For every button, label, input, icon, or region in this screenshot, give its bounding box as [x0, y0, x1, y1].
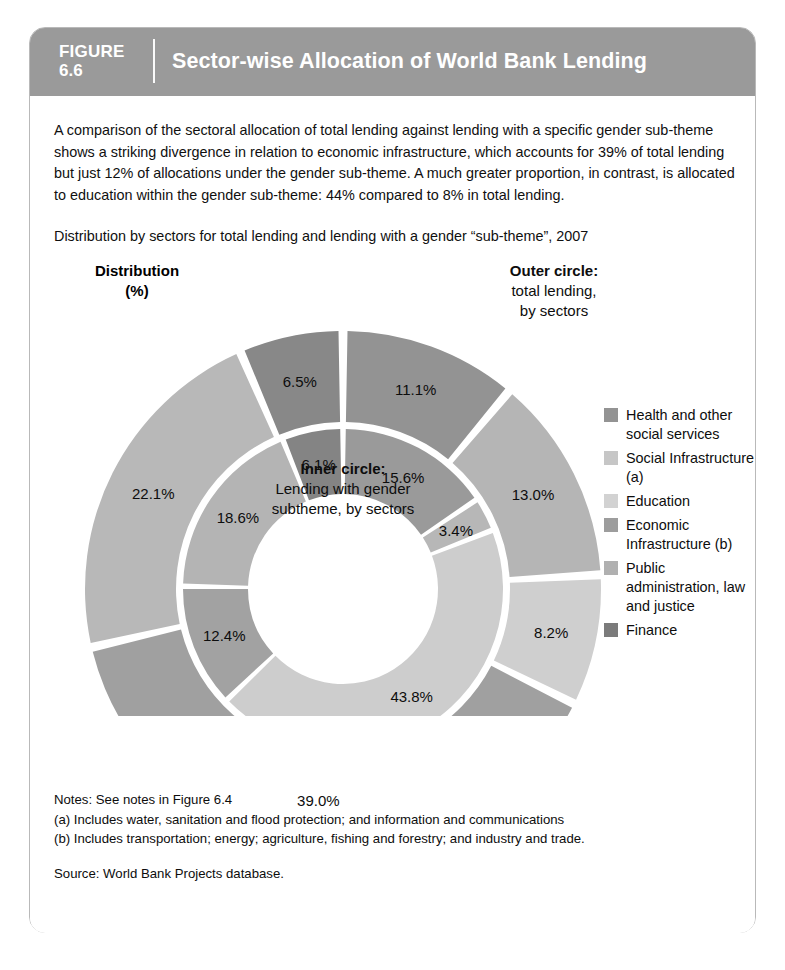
- figure-number: 6.6: [59, 61, 151, 80]
- slice-value-label: 11.1%: [395, 381, 436, 398]
- figure-page: FIGURE 6.6 Sector-wise Allocation of Wor…: [0, 0, 785, 970]
- chart-legend: Health and other social servicesSocial I…: [604, 406, 754, 645]
- legend-swatch: [604, 408, 618, 422]
- legend-label: Social Infrastructure (a): [626, 449, 754, 487]
- legend-item: Public administration, law and justice: [604, 559, 754, 616]
- outer-circle-line1: total lending,: [511, 282, 596, 299]
- figure-label: FIGURE: [59, 42, 151, 61]
- inner-circle-line2: subtheme, by sectors: [272, 500, 415, 517]
- slice-value-label: 6.5%: [283, 372, 317, 389]
- legend-label: Public administration, law and justice: [626, 559, 754, 616]
- slice-value-label: 3.4%: [439, 521, 473, 538]
- distribution-annotation: Distribution (%): [62, 261, 212, 301]
- legend-swatch: [604, 518, 618, 532]
- figure-source: Source: World Bank Projects database.: [54, 864, 714, 883]
- notes-line-2: (a) Includes water, sanitation and flood…: [54, 810, 714, 830]
- figure-body: A comparison of the sectoral allocation …: [30, 96, 755, 933]
- legend-swatch: [604, 623, 618, 637]
- legend-swatch: [604, 561, 618, 575]
- distribution-line2: (%): [125, 282, 148, 299]
- outer-circle-title: Outer circle:: [510, 262, 598, 279]
- figure-title: Sector-wise Allocation of World Bank Len…: [172, 49, 647, 74]
- figure-header: FIGURE 6.6 Sector-wise Allocation of Wor…: [30, 28, 755, 94]
- legend-label: Health and other social services: [626, 406, 754, 444]
- notes-line-3: (b) Includes transportation; energy; agr…: [54, 829, 714, 849]
- slice-value-label: 6.1%: [302, 455, 336, 472]
- legend-item: Education: [604, 492, 754, 511]
- legend-label: Economic Infrastructure (b): [626, 516, 754, 554]
- legend-item: Social Infrastructure (a): [604, 449, 754, 487]
- outer-circle-line2: by sectors: [520, 302, 588, 319]
- header-divider: [153, 39, 155, 83]
- slice-value-label: 8.2%: [534, 623, 568, 640]
- slice-value-label: 13.0%: [512, 485, 555, 502]
- legend-item: Finance: [604, 621, 754, 640]
- slice-value-label: 22.1%: [132, 485, 175, 502]
- notes-line-1: Notes: See notes in Figure 6.4: [54, 790, 714, 810]
- outer-circle-annotation: Outer circle: total lending, by sectors: [454, 261, 654, 321]
- slice-value-label: 15.6%: [382, 468, 425, 485]
- legend-label: Finance: [626, 621, 677, 640]
- distribution-line1: Distribution: [95, 262, 179, 279]
- donut-slice: [229, 533, 503, 716]
- legend-swatch: [604, 451, 618, 465]
- legend-swatch: [604, 494, 618, 508]
- slice-value-label: 12.4%: [203, 627, 246, 644]
- slice-value-label: 43.8%: [390, 688, 433, 705]
- legend-item: Economic Infrastructure (b): [604, 516, 754, 554]
- figure-notes: Notes: See notes in Figure 6.4 (a) Inclu…: [54, 790, 714, 849]
- slice-value-label: 18.6%: [217, 508, 260, 525]
- legend-item: Health and other social services: [604, 406, 754, 444]
- legend-label: Education: [626, 492, 690, 511]
